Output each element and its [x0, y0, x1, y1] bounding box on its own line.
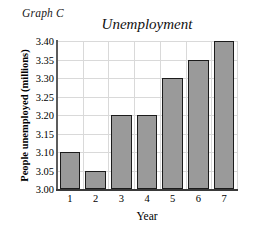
y-tick-label: 3.20 — [20, 110, 54, 121]
y-tick-label: 3.00 — [20, 184, 54, 195]
x-tick-label: 2 — [93, 193, 98, 204]
plot-area — [57, 41, 237, 189]
y-axis-tick-labels: 3.003.053.103.153.203.253.303.353.40 — [18, 41, 54, 189]
bar — [111, 115, 132, 189]
bar — [137, 115, 158, 189]
bar — [85, 171, 106, 190]
bar — [60, 152, 81, 189]
y-tick-label: 3.35 — [20, 54, 54, 65]
y-tick-label: 3.40 — [20, 36, 54, 47]
x-axis-line — [56, 189, 238, 191]
x-axis-tick-labels: 1234567 — [57, 193, 237, 207]
x-tick-label: 1 — [67, 193, 72, 204]
y-axis-line — [56, 40, 58, 190]
x-tick-label: 6 — [196, 193, 201, 204]
bar — [162, 78, 183, 189]
y-tick-label: 3.15 — [20, 128, 54, 139]
x-tick-label: 7 — [222, 193, 227, 204]
y-tick-label: 3.25 — [20, 91, 54, 102]
x-tick-label: 3 — [119, 193, 124, 204]
chart-title: Unemployment — [57, 16, 237, 33]
y-tick-label: 3.10 — [20, 147, 54, 158]
chart-figure: Graph C Unemployment People unemployed (… — [0, 0, 258, 243]
bar-series — [57, 41, 237, 189]
x-tick-label: 5 — [170, 193, 175, 204]
gridline-vertical — [237, 41, 238, 189]
bar — [188, 60, 209, 190]
y-tick-label: 3.05 — [20, 165, 54, 176]
x-axis-title: Year — [57, 210, 237, 222]
y-tick-label: 3.30 — [20, 73, 54, 84]
x-tick-label: 4 — [144, 193, 149, 204]
bar — [214, 41, 235, 189]
